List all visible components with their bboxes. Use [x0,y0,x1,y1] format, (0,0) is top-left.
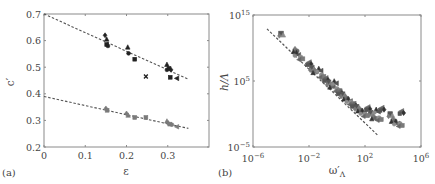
data-point-x [144,75,148,79]
data-point-square [336,92,340,96]
data-point-triangle-up [165,62,170,66]
y-tick-label: 0.3 [26,115,41,126]
x-tick-label: 0.3 [160,150,175,161]
data-point-circle [331,82,335,86]
y-tick-label: 0.5 [26,62,41,73]
tick-label: 10−2 [298,152,320,164]
data-point-square [105,108,109,112]
panel-b-y-axis-label: h/Λ [218,73,230,91]
panel-a-data-points [103,33,179,129]
data-point-circle [392,123,396,127]
data-point-square [322,79,326,83]
tick-label: 106 [413,152,430,164]
figure: 00.10.20.30.20.30.40.50.60.7 ε c′ (a) 10… [0,0,435,184]
y-tick-label: 0.2 [26,142,41,153]
tick-label: 10−6 [242,152,265,164]
data-point-square [144,116,148,120]
data-point-circle [345,100,349,104]
data-point-square [133,57,137,61]
data-point-square [400,124,404,128]
omega-lambda-label: ω′Λ [329,164,346,179]
data-point-circle [359,112,363,116]
tick-label: 105 [233,75,250,87]
y-tick-label: 0.6 [26,35,41,46]
data-point-circle [106,44,110,48]
y-tick-label: 0.7 [26,9,41,20]
data-point-circle [127,51,131,55]
panel-b-data-points [278,31,406,128]
panel-b-label: (b) [218,167,232,178]
data-point-square [306,63,310,67]
x-tick-label: 0 [41,150,47,161]
tick-label: 1015 [229,9,250,21]
data-point-square [168,75,172,79]
x-tick-label: 0.2 [119,150,134,161]
data-point-square [378,109,382,113]
data-point-square [364,108,368,112]
y-tick-label: 0.4 [26,88,41,99]
x-tick-label: 0.1 [78,150,93,161]
data-point-square [301,57,305,61]
panel-a-label: (a) [2,167,16,178]
panel-a-chart: 00.10.20.30.20.30.40.50.60.7 ε c′ (a) [2,9,209,179]
data-point-square [398,112,402,116]
panel-b-x-axis-label: ω′Λ [329,164,346,179]
data-point-square [350,105,354,109]
data-point-triangle-left [174,76,178,81]
panel-a-x-axis-label: ε [123,165,128,177]
data-point-circle [293,54,297,58]
tick-label: 102 [357,152,374,164]
data-point-circle [315,70,319,74]
data-point-square [133,116,137,120]
tick-label: 10−5 [228,141,250,153]
data-point-square [379,118,383,122]
panel-b-chart: 10−610−210210610−51051015 ω′Λ h/Λ (b) [218,9,430,179]
panel-a-ticks: 00.10.20.30.20.30.40.50.60.7 [26,9,209,162]
data-point-circle [170,123,174,127]
panel-a-y-axis-label: c′ [4,77,16,86]
data-point-triangle-up [125,45,130,49]
data-point-circle [373,111,377,115]
